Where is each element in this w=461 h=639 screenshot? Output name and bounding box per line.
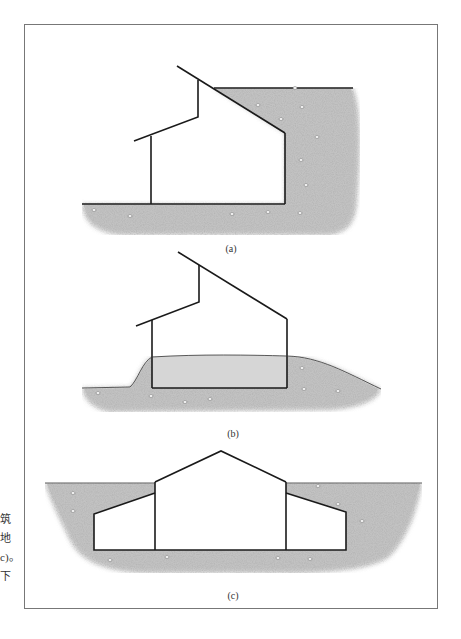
figure-b [82, 252, 381, 412]
interior-fill [152, 355, 287, 388]
caption-b: (b) [227, 428, 239, 439]
caption-a: (a) [225, 243, 236, 254]
earth-fill [82, 88, 360, 235]
caption-c: (c) [227, 590, 238, 601]
figure-a [82, 66, 360, 235]
figure-c [45, 451, 422, 573]
diagram-canvas [0, 0, 461, 639]
